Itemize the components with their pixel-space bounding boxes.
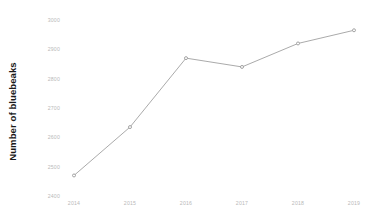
- series-line-group: [0, 0, 385, 222]
- line-chart: Number of bluebeaks 24002500260027002800…: [0, 0, 385, 222]
- data-point-marker: [241, 65, 244, 68]
- data-point-marker: [129, 126, 132, 129]
- data-point-marker: [185, 57, 188, 60]
- data-point-marker: [73, 174, 76, 177]
- plot-area: [0, 0, 385, 222]
- data-point-marker: [297, 42, 300, 45]
- data-point-marker: [353, 29, 356, 32]
- series-line: [74, 30, 354, 175]
